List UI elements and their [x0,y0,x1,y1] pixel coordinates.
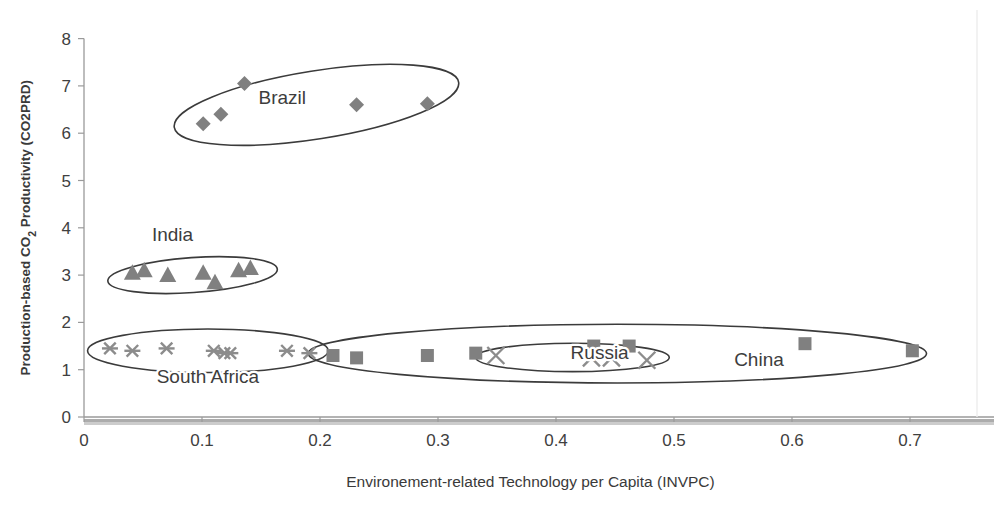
data-point [237,76,252,91]
y-tick-label: 1 [62,361,71,380]
data-point [230,262,247,277]
data-point [487,347,504,364]
y-tick-label: 7 [62,77,71,96]
series-brazil [196,76,435,131]
series-south-africa [102,343,317,359]
data-point [349,97,364,112]
data-point [350,351,363,364]
x-tick-label: 0.1 [190,431,214,450]
data-point [242,260,259,275]
chart-canvas: 01234567800.10.20.30.40.50.60.7Environem… [0,0,999,508]
x-tick-label: 0.4 [544,431,568,450]
cluster-label-china: China [734,349,784,370]
data-point [124,345,140,357]
x-tick-label: 0.5 [662,431,686,450]
cluster-label-russia: Russia [571,342,630,363]
cluster-label-south-africa: South Africa [157,366,260,387]
data-point [136,262,153,277]
y-axis-title: Production-based CO2 Productivity (CO2PR… [18,80,38,375]
data-point [421,349,434,362]
y-tick-label: 4 [62,219,71,238]
data-point [469,347,482,360]
data-point [195,264,212,279]
data-point [326,349,339,362]
data-point [159,267,176,282]
data-point [798,337,811,350]
x-tick-label: 0.7 [898,431,922,450]
data-point [906,344,919,357]
y-tick-label: 8 [62,30,71,49]
y-tick-label: 3 [62,266,71,285]
data-point [279,345,295,357]
x-tick-label: 0 [79,431,88,450]
data-point [159,343,175,355]
data-point [102,343,118,355]
data-point [213,107,228,122]
data-point [124,264,141,279]
x-tick-label: 0.3 [426,431,450,450]
x-axis-title: Environement-related Technology per Capi… [346,473,714,490]
x-tick-label: 0.6 [780,431,804,450]
cluster-label-india: India [152,224,194,245]
axis-baseline-shadow-dark [84,419,994,422]
cluster-ellipse-brazil [169,49,464,161]
data-point [420,96,435,111]
data-point [222,347,238,359]
y-tick-label: 2 [62,313,71,332]
y-tick-label: 0 [62,408,71,427]
scatter-chart: 01234567800.10.20.30.40.50.60.7Environem… [0,0,999,508]
y-tick-label: 6 [62,124,71,143]
data-point [196,116,211,131]
x-tick-label: 0.2 [308,431,332,450]
cluster-label-brazil: Brazil [258,87,306,108]
series-india [124,260,259,290]
y-tick-label: 5 [62,172,71,191]
